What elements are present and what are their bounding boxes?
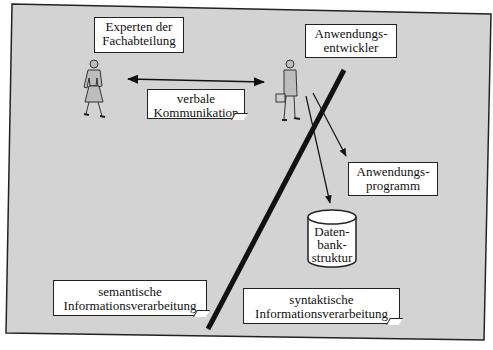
verbal-label-line2: Kommunikation bbox=[152, 106, 240, 120]
database-label-line3: struktur bbox=[308, 251, 356, 264]
developer-label: Anwendungs- entwickler bbox=[305, 24, 397, 58]
experts-label-line2: Fachabteilung bbox=[99, 34, 179, 48]
semantic-processing-label: semantische Informationsverarbeitung bbox=[53, 280, 207, 316]
developer-label-line2: entwickler bbox=[310, 41, 392, 55]
database-structure-label: Daten- bank- struktur bbox=[308, 225, 356, 264]
application-program-label: Anwendungs- programm bbox=[348, 162, 438, 196]
verbal-communication-label: verbale Kommunikation bbox=[147, 89, 245, 119]
verbal-label-line1: verbale bbox=[152, 92, 240, 106]
program-label-line2: programm bbox=[353, 179, 433, 193]
semantic-label-line1: semantische bbox=[58, 285, 202, 299]
diagram-canvas: Experten der Fachabteilung Anwendungs- e… bbox=[0, 0, 493, 350]
syntactic-processing-label: syntaktische Informationsverarbeitung bbox=[243, 288, 400, 324]
semantic-label-line2: Informationsverarbeitung bbox=[58, 299, 202, 313]
developer-label-line1: Anwendungs- bbox=[310, 27, 392, 41]
syntactic-label-line1: syntaktische bbox=[248, 293, 395, 307]
program-label-line1: Anwendungs- bbox=[353, 165, 433, 179]
experts-label: Experten der Fachabteilung bbox=[94, 17, 184, 53]
syntactic-label-line2: Informationsverarbeitung bbox=[248, 307, 395, 321]
experts-label-line1: Experten der bbox=[99, 20, 179, 34]
